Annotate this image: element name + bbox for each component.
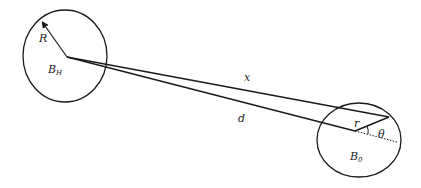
- diagram-canvas: R BH x d r θ B0: [0, 0, 421, 188]
- ball-h-circle: [23, 10, 107, 102]
- label-ball-h-sub: H: [55, 69, 63, 77]
- label-ball-h-main: B: [47, 63, 56, 76]
- label-ball-h: BH: [47, 63, 63, 77]
- label-ball-0-main: B: [349, 150, 358, 163]
- ball-0-circle: [317, 103, 401, 177]
- line-x: [67, 57, 389, 117]
- label-x: x: [244, 71, 251, 84]
- label-radius: R: [38, 32, 47, 45]
- line-d: [67, 57, 355, 131]
- label-theta: θ: [378, 128, 385, 141]
- label-r: r: [354, 117, 360, 130]
- label-ball-0-sub: 0: [358, 156, 363, 164]
- label-d: d: [238, 112, 245, 125]
- angle-arc: [367, 126, 368, 134]
- dotted-extension: [355, 131, 397, 142]
- label-ball-0: B0: [349, 150, 363, 164]
